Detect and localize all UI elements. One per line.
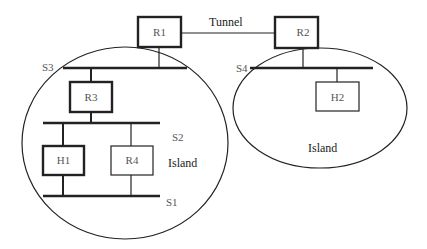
left-island-boundary [22, 47, 228, 239]
router-r1-label: R1 [153, 26, 166, 38]
router-r2: R2 [275, 17, 318, 48]
network-diagram: Tunnel R1 R2 R3 H1 R4 H2 S3 S4 S2 S1 [0, 0, 427, 249]
segment-s4-label: S4 [236, 62, 248, 74]
host-h1: H1 [43, 146, 84, 175]
segment-s3-label: S3 [42, 61, 54, 73]
segment-s1-label: S1 [166, 196, 178, 208]
router-r3-label: R3 [85, 91, 98, 103]
router-r4-label: R4 [126, 154, 139, 166]
router-r4: R4 [111, 146, 153, 175]
segment-s2-label: S2 [172, 131, 184, 143]
router-r1: R1 [138, 17, 181, 47]
host-h2-label: H2 [331, 91, 344, 103]
right-island-label: Island [308, 141, 337, 155]
host-h1-label: H1 [57, 154, 70, 166]
host-h2: H2 [316, 82, 359, 111]
router-r2-label: R2 [297, 26, 310, 38]
tunnel-label: Tunnel [209, 15, 243, 29]
left-island-label: Island [168, 156, 197, 170]
router-r3: R3 [70, 82, 112, 112]
